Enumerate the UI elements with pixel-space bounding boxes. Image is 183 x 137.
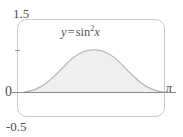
area-fill-sin-squared bbox=[24, 50, 164, 92]
y-axis-zero-label: 0 bbox=[5, 85, 12, 99]
equation-operator: = bbox=[67, 25, 76, 39]
equation-lhs: y bbox=[61, 25, 67, 39]
equation-annotation: y=sin2x bbox=[61, 26, 100, 39]
equation-variable: x bbox=[94, 25, 100, 39]
figure-sin-squared-plot: 1.5 0 -0.5 π y=sin2x bbox=[0, 0, 183, 137]
y-axis-min-label: -0.5 bbox=[6, 120, 27, 133]
x-axis-pi-label: π bbox=[166, 82, 172, 94]
equation-function: sin bbox=[76, 25, 91, 39]
y-axis-max-label: 1.5 bbox=[13, 7, 29, 20]
